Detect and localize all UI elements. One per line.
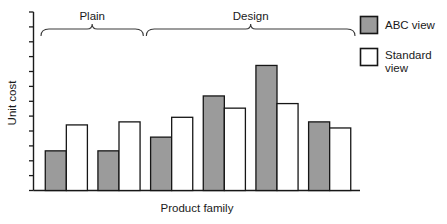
legend-label-standard-view-line2: view [385,62,409,74]
legend-swatch-standard-icon [361,49,378,66]
legend-label-standard-view-line1: Standard [385,49,432,61]
bar-abc-view [45,151,66,191]
bracket-plain [41,24,143,36]
bars-layer [45,65,350,190]
y-axis [29,12,34,191]
legend: ABC view Standard view [361,17,436,75]
bar-standard-view [172,117,193,190]
bar-standard-view [119,122,140,191]
legend-item-standard-view[interactable]: Standard view [361,49,432,75]
group-label-design: Design [233,10,269,22]
legend-swatch-abc-icon [361,17,378,34]
bar-standard-view [66,125,87,191]
bar-abc-view [256,65,277,190]
legend-item-abc-view[interactable]: ABC view [361,17,436,34]
chart-canvas: Plain Design Product family Unit cost AB… [0,0,447,224]
bar-standard-view [224,108,245,190]
y-axis-title: Unit cost [6,80,18,126]
bar-standard-view [277,104,298,191]
legend-label-abc-view: ABC view [385,19,436,31]
bar-abc-view [151,137,172,190]
bar-standard-view [330,128,351,191]
bar-abc-view [98,151,119,191]
bar-abc-view [203,96,224,191]
x-axis-title: Product family [161,202,234,214]
group-label-plain: Plain [79,10,105,22]
bracket-design [146,24,355,36]
group-brackets [41,24,355,36]
bar-abc-view [309,122,330,191]
bar-chart: Plain Design Product family Unit cost AB… [0,0,447,224]
